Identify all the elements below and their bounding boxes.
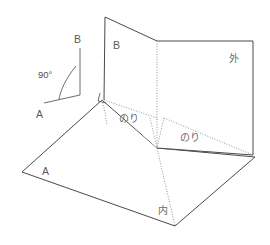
angle-inset-arc — [59, 66, 76, 100]
angle-inset-a-label: A — [36, 108, 43, 120]
angle-inset-90-label: 90° — [38, 69, 53, 80]
angle-inset-segment-a — [44, 95, 80, 103]
label-glue-tab-left: のり — [119, 113, 139, 124]
angle-inset-group: 90° B A — [36, 33, 81, 120]
label-base-a: A — [42, 165, 49, 177]
label-glue-tab-right: のり — [180, 132, 200, 143]
paper-folding-diagram: 90° B A B 外 A 内 のり のり — [0, 0, 270, 245]
diagram-canvas: 90° B A B 外 A 内 のり のり — [0, 0, 270, 245]
label-base-uchi: 内 — [158, 204, 168, 216]
angle-inset-b-label: B — [74, 33, 81, 45]
label-vertical-b: B — [113, 39, 120, 51]
label-vertical-soto: 外 — [229, 53, 239, 64]
